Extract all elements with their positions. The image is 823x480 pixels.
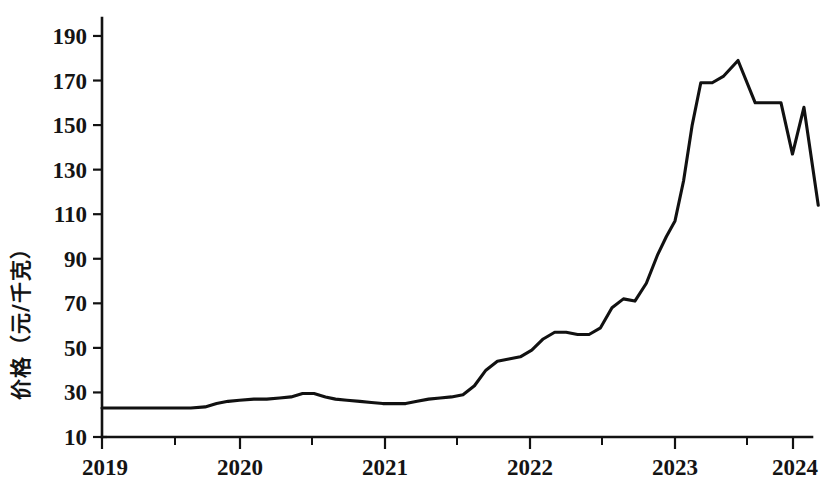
y-axis-label-group: 价格（元/千克） — [9, 237, 33, 400]
x-tick-label: 2020 — [217, 455, 263, 480]
y-axis-label: 价格（元/千克） — [9, 237, 33, 400]
y-tick-label: 10 — [64, 425, 87, 450]
x-tick-label: 2023 — [652, 455, 698, 480]
chart-svg: 价格（元/千克） 1030507090110130150170190 20192… — [0, 0, 823, 480]
y-tick-label: 190 — [53, 24, 88, 49]
y-axis-ticks: 1030507090110130150170190 — [53, 24, 108, 450]
line-chart-figure: 价格（元/千克） 1030507090110130150170190 20192… — [0, 0, 823, 480]
y-tick-label: 170 — [53, 69, 88, 94]
data-series-group — [102, 60, 818, 408]
y-tick-label: 70 — [64, 291, 87, 316]
price-line-series — [102, 60, 818, 408]
x-axis-ticks: 201920202021202220232024 — [82, 437, 819, 480]
x-tick-label: 2021 — [362, 455, 408, 480]
y-tick-label: 90 — [64, 247, 87, 272]
x-tick-label: 2024 — [772, 455, 819, 480]
x-tick-label: 2022 — [507, 455, 553, 480]
y-tick-label: 50 — [64, 336, 87, 361]
y-tick-label: 150 — [53, 113, 88, 138]
y-tick-label: 30 — [64, 380, 87, 405]
x-tick-label: 2019 — [82, 455, 128, 480]
y-tick-label: 110 — [54, 202, 87, 227]
y-tick-label: 130 — [53, 158, 88, 183]
